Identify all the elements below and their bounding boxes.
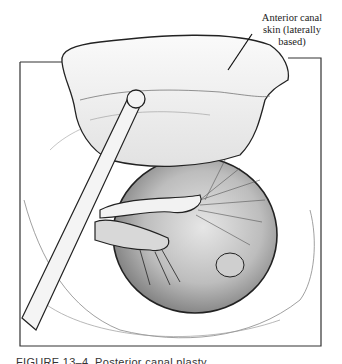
annotation-line-2: skin (laterally — [244, 24, 340, 36]
illustration-drawing — [0, 0, 342, 364]
figure-caption: FIGURE 13–4. Posterior canal plasty — [16, 355, 336, 364]
annotation-line-3: based) — [244, 36, 340, 48]
surgical-illustration: Anterior canal skin (laterally based) FI… — [0, 0, 342, 364]
annotation-label: Anterior canal skin (laterally based) — [244, 12, 340, 48]
skin-flap — [62, 35, 289, 166]
annotation-line-1: Anterior canal — [244, 12, 340, 24]
